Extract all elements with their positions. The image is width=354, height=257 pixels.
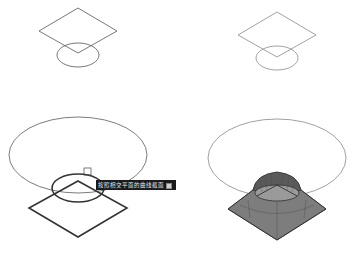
diamond-profile[interactable] bbox=[238, 12, 316, 57]
diamond-profile[interactable] bbox=[39, 8, 117, 53]
circle-profile[interactable] bbox=[57, 43, 99, 67]
selection-tooltip: 按照相交平面的曲线截面选择 bbox=[96, 180, 176, 190]
tooltip-text: 按照相交平面的曲线截面选择 bbox=[98, 180, 164, 190]
drawing-canvas[interactable] bbox=[0, 0, 354, 257]
panel-bottom-right bbox=[208, 119, 346, 240]
panel-top-left bbox=[39, 8, 117, 67]
circle-profile[interactable] bbox=[256, 46, 298, 70]
options-icon[interactable] bbox=[166, 183, 172, 189]
panel-bottom-left bbox=[9, 117, 147, 237]
panel-top-right bbox=[238, 12, 316, 70]
lofted-solid[interactable] bbox=[228, 172, 326, 240]
